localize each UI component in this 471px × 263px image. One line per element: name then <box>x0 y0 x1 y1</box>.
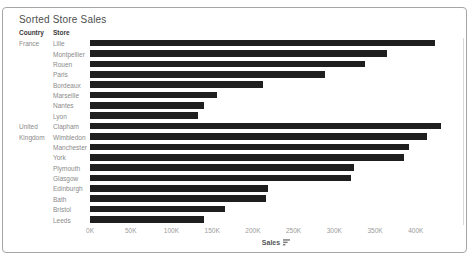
bar-row: Manchester <box>3 142 466 152</box>
bar-row: Montpellier <box>3 48 466 58</box>
sales-bar[interactable] <box>90 164 354 171</box>
bar-row: Bristol <box>3 204 466 214</box>
sales-bar[interactable] <box>90 123 441 130</box>
bar-row: Edinburgh <box>3 183 466 193</box>
bar-row: Bath <box>3 194 466 204</box>
x-axis-tick-label: 300K <box>327 227 342 234</box>
store-label: Leeds <box>53 216 71 223</box>
sales-bar[interactable] <box>90 185 268 192</box>
plot-right-border <box>463 38 464 225</box>
sales-bar[interactable] <box>90 92 217 99</box>
store-label: Bath <box>53 195 66 202</box>
store-label: Lyon <box>53 112 67 119</box>
bar-row: Paris <box>3 69 466 79</box>
bar-row: Glasgow <box>3 173 466 183</box>
sales-bar[interactable] <box>90 50 387 57</box>
bar-row: UnitedClapham <box>3 121 466 131</box>
sales-bar[interactable] <box>90 40 435 47</box>
store-label: Nantes <box>53 102 74 109</box>
store-label: Edinburgh <box>53 185 83 192</box>
bar-row: KingdomWimbledon <box>3 131 466 141</box>
store-label: Montpellier <box>53 50 85 57</box>
sales-bar[interactable] <box>90 112 198 119</box>
sales-bar[interactable] <box>90 61 365 68</box>
store-label: York <box>53 154 66 161</box>
x-axis-tick-label: 100K <box>164 227 179 234</box>
x-axis-tick-label: 350K <box>367 227 382 234</box>
x-axis-tick-label: 50K <box>125 227 137 234</box>
store-label: Bordeaux <box>53 81 81 88</box>
x-axis: 0K50K100K150K200K250K300K350K400K <box>90 227 463 236</box>
bar-row: Marseille <box>3 90 466 100</box>
sales-bar[interactable] <box>90 195 266 202</box>
x-axis-title[interactable]: Sales <box>90 239 463 247</box>
store-label: Plymouth <box>53 164 80 171</box>
sales-bar[interactable] <box>90 154 404 161</box>
bar-row: Leeds <box>3 214 466 224</box>
bar-row: York <box>3 152 466 162</box>
bar-row: Nantes <box>3 100 466 110</box>
chart-title: Sorted Store Sales <box>19 14 107 25</box>
sales-bar[interactable] <box>90 216 204 223</box>
country-label: United <box>19 123 38 130</box>
sort-descending-icon[interactable] <box>283 239 291 247</box>
bar-row: Bordeaux <box>3 80 466 90</box>
sales-bar[interactable] <box>90 102 204 109</box>
sales-bar[interactable] <box>90 133 427 140</box>
store-label: Rouen <box>53 60 72 67</box>
store-column-header: Store <box>53 29 70 36</box>
bar-row: Lyon <box>3 111 466 121</box>
sales-bar[interactable] <box>90 81 263 88</box>
x-axis-tick-label: 0K <box>86 227 94 234</box>
sales-bar[interactable] <box>90 144 409 151</box>
bar-row: Plymouth <box>3 163 466 173</box>
x-axis-title-label: Sales <box>262 239 280 246</box>
chart-card: Sorted Store Sales Country Store FranceL… <box>2 7 467 253</box>
sales-bar[interactable] <box>90 175 351 182</box>
x-axis-tick-label: 150K <box>205 227 220 234</box>
sales-bar[interactable] <box>90 71 325 78</box>
store-label: Marseille <box>53 92 79 99</box>
column-headers: Country Store <box>3 29 466 38</box>
bar-row: FranceLille <box>3 38 466 48</box>
store-label: Clapham <box>53 123 79 130</box>
bar-row: Rouen <box>3 59 466 69</box>
store-label: Lille <box>53 40 65 47</box>
country-column-header: Country <box>19 29 44 36</box>
x-axis-tick-label: 200K <box>245 227 260 234</box>
store-label: Glasgow <box>53 175 78 182</box>
x-axis-tick-label: 250K <box>286 227 301 234</box>
store-label: Bristol <box>53 206 71 213</box>
bar-rows: FranceLilleMontpellierRouenParisBordeaux… <box>3 38 466 225</box>
country-label: France <box>19 40 39 47</box>
store-label: Paris <box>53 71 68 78</box>
x-axis-tick-label: 400K <box>408 227 423 234</box>
country-label: Kingdom <box>19 133 45 140</box>
store-label: Manchester <box>53 143 87 150</box>
store-label: Wimbledon <box>53 133 86 140</box>
sales-bar[interactable] <box>90 206 225 213</box>
